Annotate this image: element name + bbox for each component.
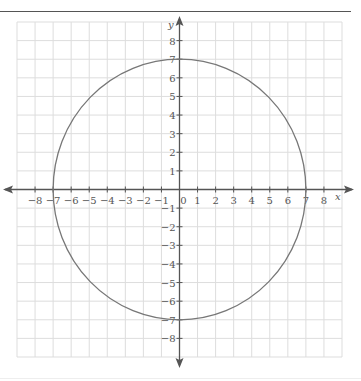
x-tick-label: 8 xyxy=(321,195,327,206)
x-tick-label: 4 xyxy=(249,195,255,206)
y-tick-label: 4 xyxy=(169,110,175,121)
axes xyxy=(3,16,354,368)
y-axis-label: y xyxy=(167,19,174,30)
y-tick-label: −8 xyxy=(161,333,176,344)
x-tick-label: −6 xyxy=(64,195,79,206)
x-tick-label: −3 xyxy=(118,195,133,206)
y-tick-label: −7 xyxy=(161,315,176,326)
x-tick-label: 1 xyxy=(194,195,200,206)
x-tick-label: 0 xyxy=(180,195,186,206)
y-tick-label: −3 xyxy=(161,240,176,251)
y-tick-label: −1 xyxy=(161,203,176,214)
y-tick-label: 8 xyxy=(169,36,175,47)
x-tick-label: 6 xyxy=(285,195,291,206)
coordinate-plane: −8−7−6−5−4−3−2−1012345678−8−7−6−5−4−3−2−… xyxy=(0,0,361,381)
x-tick-label: 5 xyxy=(267,195,273,206)
x-tick-label: −8 xyxy=(28,195,43,206)
x-tick-label: −2 xyxy=(136,195,151,206)
y-tick-label: −2 xyxy=(161,222,176,233)
x-axis-label: x xyxy=(335,191,341,202)
y-tick-label: 1 xyxy=(169,166,175,177)
x-tick-label: 2 xyxy=(212,195,218,206)
x-tick-label: −4 xyxy=(100,195,115,206)
y-tick-label: 5 xyxy=(169,91,175,102)
y-tick-label: 3 xyxy=(169,129,175,140)
x-tick-label: −5 xyxy=(82,195,97,206)
y-tick-label: −6 xyxy=(161,296,176,307)
y-tick-label: 2 xyxy=(169,147,175,158)
x-tick-label: 3 xyxy=(230,195,236,206)
y-tick-label: 6 xyxy=(169,73,175,84)
y-tick-label: −5 xyxy=(161,278,176,289)
y-tick-label: −4 xyxy=(161,259,176,270)
